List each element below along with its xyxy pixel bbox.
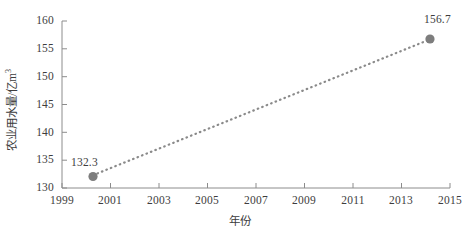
y-axis-title-exponent: 3 xyxy=(4,69,13,73)
y-tick-label: 160 xyxy=(14,15,54,27)
y-tick-label: 155 xyxy=(14,43,54,55)
y-axis-title: 农业用水量/亿m3 xyxy=(6,55,18,165)
y-tick-label: 135 xyxy=(14,154,54,166)
x-tick-label: 2015 xyxy=(420,195,474,207)
data-point-marker[interactable] xyxy=(425,34,434,43)
y-axis-title-text: 农业用水量/亿m xyxy=(6,73,18,151)
data-point-label: 156.7 xyxy=(424,14,451,26)
y-axis-ticks xyxy=(62,21,67,188)
trend-line xyxy=(93,39,430,175)
data-point-marker[interactable] xyxy=(88,172,97,181)
x-axis-ticks xyxy=(62,183,450,188)
data-point-label: 132.3 xyxy=(71,157,98,169)
y-tick-label: 140 xyxy=(14,127,54,139)
y-tick-label: 145 xyxy=(14,99,54,111)
x-axis-title: 年份 xyxy=(180,215,300,227)
y-tick-label: 150 xyxy=(14,71,54,83)
chart-container: 160 155 150 145 140 135 130 1999 2001 20… xyxy=(0,0,474,241)
y-tick-label: 130 xyxy=(14,182,54,194)
